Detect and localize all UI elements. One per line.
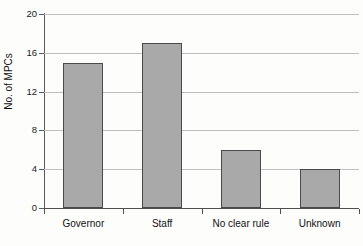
bar-no-clear-rule <box>221 150 261 208</box>
bar-governor <box>63 63 103 209</box>
x-category-label: Governor <box>44 219 123 229</box>
y-tick-label: 8 <box>3 125 37 135</box>
y-tick-label-wrap: 8 <box>0 125 37 135</box>
gridline <box>44 53 359 54</box>
y-tick-label: 12 <box>3 87 37 97</box>
gridline <box>44 14 359 15</box>
bar-unknown <box>300 169 340 208</box>
x-category-label: Unknown <box>280 219 359 229</box>
x-tick-mark <box>44 209 45 214</box>
bar-chart-figure: No. of MPCs 048121620 GovernorStaffNo cl… <box>0 0 363 246</box>
y-tick-label-wrap: 12 <box>0 87 37 97</box>
y-tick-label-wrap: 0 <box>0 203 37 213</box>
y-tick-label-wrap: 16 <box>0 48 37 58</box>
y-axis-title: No. of MPCs <box>3 27 14 137</box>
x-tick-mark <box>280 209 281 214</box>
y-tick-label: 20 <box>3 9 37 19</box>
plot-area <box>44 14 359 208</box>
y-tick-label: 4 <box>3 164 37 174</box>
y-tick-label: 16 <box>3 48 37 58</box>
x-tick-mark <box>359 209 360 214</box>
y-tick-label-wrap: 20 <box>0 9 37 19</box>
x-tick-mark <box>202 209 203 214</box>
y-tick-label-wrap: 4 <box>0 164 37 174</box>
y-tick-label: 0 <box>3 203 37 213</box>
x-tick-mark <box>123 209 124 214</box>
x-category-label: Staff <box>123 219 202 229</box>
x-category-label: No clear rule <box>202 219 281 229</box>
bar-staff <box>142 43 182 208</box>
